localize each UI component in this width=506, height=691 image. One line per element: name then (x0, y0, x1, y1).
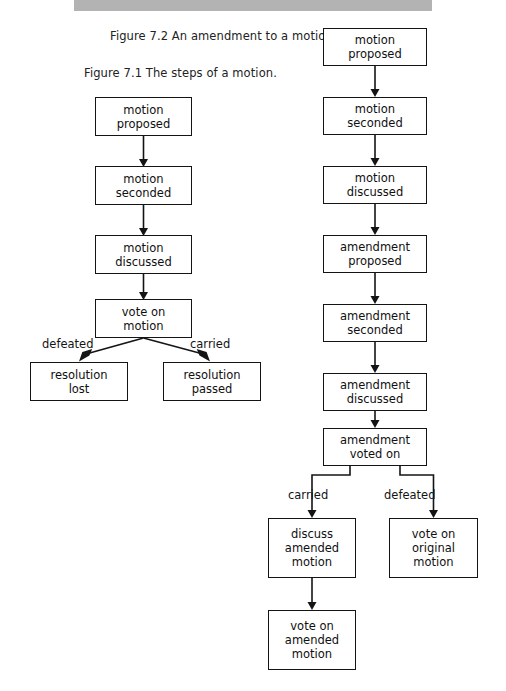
node-vote-on-amended-motion: vote on amended motion (268, 610, 356, 670)
node-line-2: motion (96, 319, 191, 333)
arrowhead-r2-r3 (371, 158, 380, 166)
node-line-2: lost (31, 382, 127, 396)
node-amendment-proposed: amendment proposed (323, 235, 427, 273)
edge-label-carried-left: carried (190, 337, 230, 351)
node-vote-on-motion-left: vote on motion (95, 299, 192, 338)
header-band (74, 0, 432, 11)
node-amendment-voted-on: amendment voted on (323, 428, 427, 466)
node-line-1: motion (324, 102, 426, 116)
node-line-2: discussed (324, 185, 426, 199)
edge-label-defeated-right: defeated (384, 488, 435, 502)
node-motion-seconded-right: motion seconded (323, 97, 427, 135)
node-amendment-discussed: amendment discussed (323, 373, 427, 411)
node-line-1: amendment (324, 433, 426, 447)
node-vote-on-original-motion: vote on original motion (389, 518, 478, 578)
arrowhead-r7-r8 (308, 510, 317, 518)
node-line-1: amendment (324, 240, 426, 254)
node-line-1: resolution (164, 368, 260, 382)
page-canvas: Figure 7.2 An amendment to a motion. Fig… (0, 0, 506, 691)
node-line-2: seconded (324, 116, 426, 130)
header-band-text (74, 0, 432, 11)
node-line-2: amended (269, 541, 355, 555)
node-line-1: vote on (96, 305, 191, 319)
node-line-1: motion (324, 171, 426, 185)
node-line-2: proposed (324, 254, 426, 268)
connector-l4-l5-path (86, 338, 144, 354)
node-resolution-lost: resolution lost (30, 362, 128, 401)
edge-label-defeated-left: defeated (42, 337, 93, 351)
node-motion-seconded-left: motion seconded (95, 166, 192, 205)
node-line-2: voted on (324, 447, 426, 461)
node-motion-proposed-left: motion proposed (95, 97, 192, 136)
node-motion-proposed-right: motion proposed (323, 28, 427, 66)
node-line-2: seconded (96, 186, 191, 200)
node-line-1: motion (96, 241, 191, 255)
node-line-2: discussed (96, 255, 191, 269)
node-line-2: proposed (324, 47, 426, 61)
arrowhead-r6-r7 (371, 420, 380, 428)
arrowhead-r7-r9 (429, 510, 438, 518)
node-line-1: discuss (269, 527, 355, 541)
node-line-1: motion (324, 33, 426, 47)
node-motion-discussed-left: motion discussed (95, 235, 192, 274)
node-line-3: motion (269, 555, 355, 569)
node-line-1: amendment (324, 309, 426, 323)
node-discuss-amended-motion: discuss amended motion (268, 518, 356, 578)
node-line-2: amended (269, 633, 355, 647)
node-line-1: vote on (269, 619, 355, 633)
node-line-1: amendment (324, 378, 426, 392)
arrowhead-r8-r10 (308, 602, 317, 610)
node-line-1: motion (96, 103, 191, 117)
node-line-1: motion (96, 172, 191, 186)
node-line-2: passed (164, 382, 260, 396)
node-resolution-passed: resolution passed (163, 362, 261, 401)
arrowhead-r3-r4 (371, 227, 380, 235)
node-line-1: resolution (31, 368, 127, 382)
node-line-2: seconded (324, 323, 426, 337)
caption-figure-7-2: Figure 7.2 An amendment to a motion. (110, 29, 337, 43)
caption-figure-7-1: Figure 7.1 The steps of a motion. (84, 66, 277, 80)
node-line-1: vote on (390, 527, 477, 541)
node-line-2: proposed (96, 117, 191, 131)
node-amendment-seconded: amendment seconded (323, 304, 427, 342)
arrowhead-r1-r2 (371, 89, 380, 97)
node-line-3: motion (269, 647, 355, 661)
edge-label-carried-right: carried (288, 488, 328, 502)
node-motion-discussed-right: motion discussed (323, 166, 427, 204)
arrowhead-r5-r6 (371, 365, 380, 373)
node-line-2: discussed (324, 392, 426, 406)
node-line-2: original (390, 541, 477, 555)
arrowhead-r4-r5 (371, 296, 380, 304)
node-line-3: motion (390, 555, 477, 569)
